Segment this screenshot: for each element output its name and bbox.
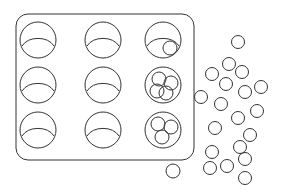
ball: [163, 41, 177, 55]
cup-r1c0: [20, 67, 56, 103]
cup-r0c0: [20, 22, 56, 58]
cup-r0c1: [85, 22, 121, 58]
loose-balls: [166, 36, 268, 185]
cup-r2c1: [85, 112, 121, 148]
tray: [16, 14, 194, 160]
ball: [155, 130, 169, 144]
cup-r2c0: [20, 112, 56, 148]
cup-r2c2: [145, 112, 181, 148]
ball: [151, 117, 165, 131]
cup-r1c1: [85, 67, 121, 103]
cup-r0c2: [145, 22, 181, 58]
muffin-tray-illustration: [0, 0, 281, 193]
cup-r1c2: [145, 67, 181, 103]
